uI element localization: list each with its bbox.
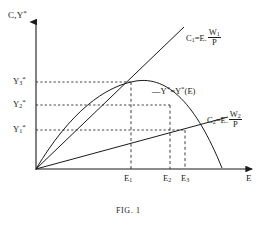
y-tick-label-y2: Y2*	[13, 99, 26, 109]
c2-equals: =E.	[216, 115, 228, 125]
annotation-y-star: —Y*=Y*(E)	[152, 86, 195, 96]
x-tick-label-e3: E3	[181, 174, 189, 183]
x-tick-sub: 1	[129, 177, 132, 183]
y-axis-label: C,Y*	[8, 10, 27, 20]
figure-caption-text: FIG. 1	[116, 206, 141, 215]
annotation-c2: C2=E.W2P	[207, 110, 242, 129]
leader-dash: —	[152, 86, 161, 96]
c1-equals: =E.	[195, 33, 207, 43]
figure-caption: FIG. 1	[116, 206, 141, 215]
c1-fraction: W1P	[208, 28, 221, 47]
annotation-c1: C1=E.W1P	[186, 28, 221, 47]
x-tick-label-e2: E2	[163, 174, 171, 183]
figure-1: C,Y* E Y3* Y2* Y1* E1 E2 E3 C1=E.W1P C2=…	[0, 0, 276, 227]
curve-c1-ray	[36, 27, 184, 169]
x-tick-sub: 3	[186, 177, 189, 183]
y-tick-label-y1: Y1*	[13, 124, 26, 134]
x-tick-sub: 2	[168, 177, 171, 183]
y-tick-label-y3: Y3*	[13, 76, 26, 86]
y-tick-star: *	[22, 98, 26, 106]
c2-fraction: W2P	[229, 110, 242, 129]
y-star-equals: =Y	[170, 86, 181, 96]
y-tick-star: *	[22, 123, 26, 131]
x-axis-label: E	[246, 174, 252, 183]
curve-c2-ray	[36, 117, 228, 169]
y-axis-label-star: *	[23, 9, 27, 17]
y-star-arg: (E)	[185, 86, 196, 96]
y-axis-label-text: C,Y	[8, 10, 23, 20]
y-tick-star: *	[22, 75, 26, 83]
x-tick-label-e1: E1	[124, 174, 132, 183]
x-axis-label-text: E	[246, 173, 252, 183]
c1-denominator: P	[208, 38, 221, 47]
c2-denominator: P	[229, 120, 242, 129]
